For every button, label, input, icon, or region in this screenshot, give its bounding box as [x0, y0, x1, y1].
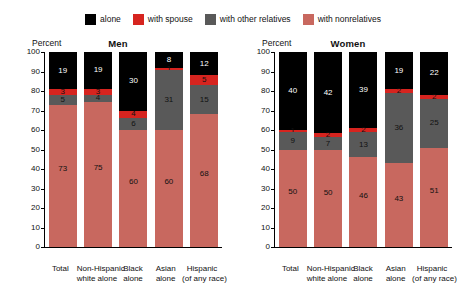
bar-women-asian-alone[interactable]: 19 2 36 43	[385, 52, 413, 247]
segment-with-nonrelatives: 50	[314, 150, 342, 247]
bar-men-hispanic[interactable]: 12 5 15 68	[190, 52, 218, 247]
bar-women-total[interactable]: 40 1 9 50	[279, 52, 307, 247]
category-labels-women: Total Non-Hispanicwhite alone Blackalone…	[274, 264, 452, 284]
category-label-non-hispanic-white-alone: Non-Hispanicwhite alone	[77, 264, 117, 284]
segment-with-spouse: 4	[119, 111, 147, 119]
segment-alone: 19	[385, 52, 413, 89]
bars-men: 19 3 5 73 19 3 4 75 30 4 6 60	[45, 52, 222, 247]
segment-alone: 42	[314, 52, 342, 133]
legend-item-with-other-relatives: with other relatives	[205, 14, 291, 25]
axis-women: 100 90 80 70 60 50 40 30 20 10 0 40 1 9 …	[274, 52, 452, 248]
legend-swatch-with-nonrelatives	[303, 14, 314, 25]
legend-label-with-spouse: with spouse	[148, 15, 193, 24]
segment-with-other-relatives: 4	[84, 95, 112, 103]
segment-alone: 19	[84, 52, 112, 89]
bar-men-asian-alone[interactable]: 8 1 31 60	[155, 52, 183, 247]
segment-with-other-relatives: 6	[119, 118, 147, 130]
bar-women-black-alone[interactable]: 39 2 13 46	[349, 52, 377, 247]
panel-header-women: Percent Women	[240, 38, 456, 52]
segment-with-nonrelatives: 60	[155, 130, 183, 247]
legend-item-with-spouse: with spouse	[133, 14, 193, 25]
segment-alone: 30	[119, 52, 147, 111]
category-label-non-hispanic-white-alone: Non-Hispanicwhite alone	[307, 264, 347, 284]
bars-women: 40 1 9 50 42 2 7 50 39 2 13 46	[275, 52, 452, 247]
axis-men: 100 90 80 70 60 50 40 30 20 10 0 19 3 5 …	[44, 52, 222, 248]
category-label-hispanic: Hispanic(of any race)	[412, 264, 452, 284]
legend-swatch-alone	[85, 14, 96, 25]
bar-men-black-alone[interactable]: 30 4 6 60	[119, 52, 147, 247]
category-label-asian-alone: Asianalone	[149, 264, 182, 284]
segment-with-nonrelatives: 68	[190, 114, 218, 247]
segment-alone: 39	[349, 52, 377, 128]
segment-with-spouse: 5	[190, 75, 218, 85]
segment-alone: 40	[279, 52, 307, 130]
chart-panel-men: Percent Men 100 90 80 70 60 50 40 30 20 …	[10, 38, 226, 290]
segment-with-nonrelatives: 46	[349, 157, 377, 247]
segment-with-other-relatives: 31	[155, 70, 183, 130]
legend-swatch-with-spouse	[133, 14, 144, 25]
legend-label-with-nonrelatives: with nonrelatives	[318, 15, 381, 24]
plot-area-women: 100 90 80 70 60 50 40 30 20 10 0 40 1 9 …	[240, 52, 456, 248]
panel-title-men: Men	[10, 38, 226, 49]
segment-with-nonrelatives: 60	[119, 130, 147, 247]
segment-with-other-relatives: 7	[314, 137, 342, 151]
segment-with-nonrelatives: 75	[84, 102, 112, 247]
category-label-hispanic: Hispanic(of any race)	[182, 264, 222, 284]
category-label-total: Total	[274, 264, 307, 274]
legend-label-alone: alone	[100, 15, 121, 24]
chart-legend: alone with spouse with other relatives w…	[0, 14, 466, 25]
chart-panel-women: Percent Women 100 90 80 70 60 50 40 30 2…	[240, 38, 456, 290]
segment-with-nonrelatives: 43	[385, 163, 413, 247]
legend-item-alone: alone	[85, 14, 121, 25]
segment-alone: 19	[49, 52, 77, 89]
category-labels-men: Total Non-Hispanicwhite alone Blackalone…	[44, 264, 222, 284]
segment-alone: 22	[420, 52, 448, 95]
segment-with-other-relatives: 9	[279, 132, 307, 150]
segment-with-nonrelatives: 50	[279, 150, 307, 248]
category-label-asian-alone: Asianalone	[379, 264, 412, 284]
segment-alone: 12	[190, 52, 218, 75]
segment-with-other-relatives: 15	[190, 85, 218, 114]
category-label-total: Total	[44, 264, 77, 274]
bar-women-non-hispanic-white-alone[interactable]: 42 2 7 50	[314, 52, 342, 247]
category-label-black-alone: Blackalone	[347, 264, 380, 284]
segment-with-nonrelatives: 51	[420, 148, 448, 247]
bar-men-non-hispanic-white-alone[interactable]: 19 3 4 75	[84, 52, 112, 247]
panel-title-women: Women	[240, 38, 456, 49]
bar-men-total[interactable]: 19 3 5 73	[49, 52, 77, 247]
bar-women-hispanic[interactable]: 22 2 25 51	[420, 52, 448, 247]
segment-with-nonrelatives: 73	[49, 105, 77, 247]
legend-label-with-other-relatives: with other relatives	[220, 15, 291, 24]
plot-area-men: 100 90 80 70 60 50 40 30 20 10 0 19 3 5 …	[10, 52, 226, 248]
segment-with-other-relatives: 36	[385, 93, 413, 163]
legend-item-with-nonrelatives: with nonrelatives	[303, 14, 381, 25]
panel-header-men: Percent Men	[10, 38, 226, 52]
segment-with-other-relatives: 13	[349, 132, 377, 157]
segment-with-other-relatives: 25	[420, 99, 448, 148]
segment-with-other-relatives: 5	[49, 95, 77, 105]
category-label-black-alone: Blackalone	[117, 264, 150, 284]
legend-swatch-with-other-relatives	[205, 14, 216, 25]
